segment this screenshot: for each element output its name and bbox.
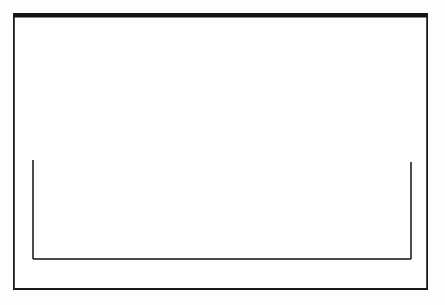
figure-root bbox=[0, 0, 445, 305]
bell-curve-strip-diagram bbox=[0, 0, 445, 305]
frame-inner-fill bbox=[13, 13, 428, 290]
